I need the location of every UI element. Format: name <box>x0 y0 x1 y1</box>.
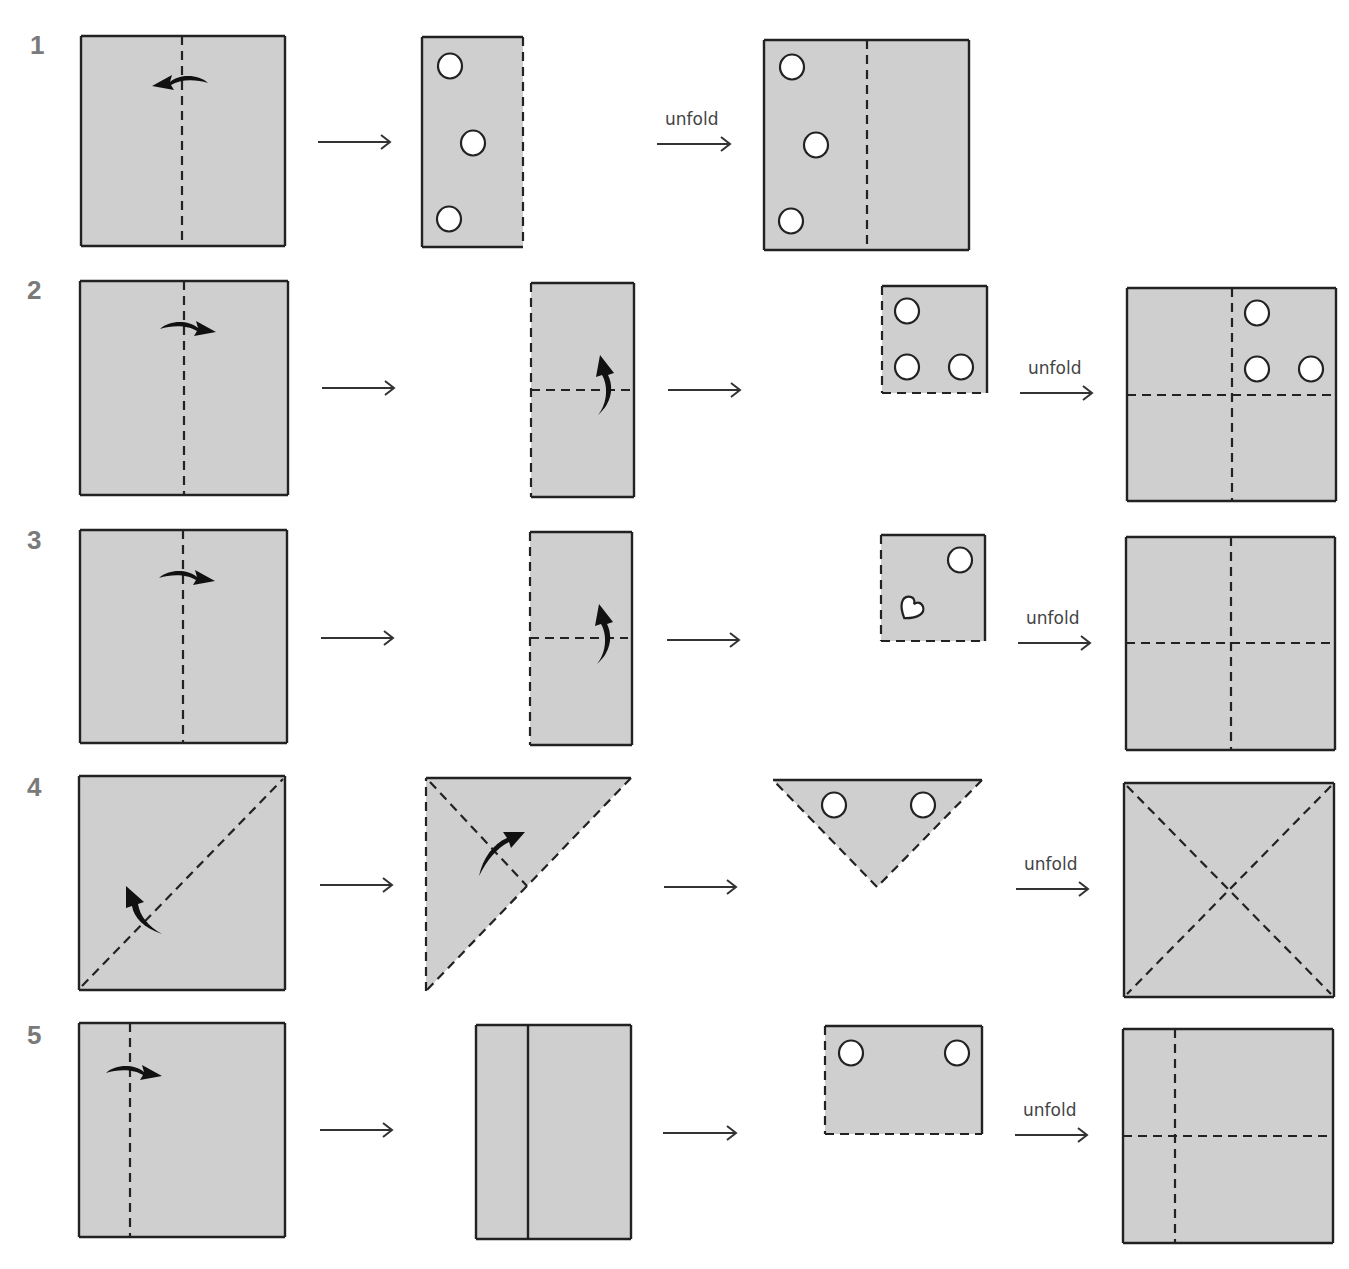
row-number: 3 <box>27 525 41 556</box>
circle-hole-icon <box>461 131 485 156</box>
circle-hole-icon <box>1299 357 1323 382</box>
paper-step-2 <box>530 532 632 745</box>
puzzle-row-2 <box>80 281 1336 501</box>
puzzle-row-4 <box>79 776 1334 997</box>
puzzle-row-5 <box>79 1023 1333 1243</box>
paper-step-2 <box>476 1025 631 1239</box>
circle-hole-icon <box>438 54 462 79</box>
circle-hole-icon <box>911 793 935 818</box>
diagram-canvas <box>0 0 1349 1269</box>
puzzle-row-1 <box>81 36 969 250</box>
circle-hole-icon <box>949 355 973 380</box>
row-number: 1 <box>30 30 44 61</box>
paper-step-1 <box>79 1023 285 1237</box>
paper-step-3 <box>773 780 982 887</box>
paper-step-1 <box>79 776 285 990</box>
paper-sheet <box>476 1025 631 1239</box>
row-number: 4 <box>27 772 41 803</box>
paper-step-2 <box>531 283 634 497</box>
circle-hole-icon <box>437 207 461 232</box>
paper-step-4 <box>1124 783 1334 997</box>
unfold-label: unfold <box>665 109 718 129</box>
unfold-label: unfold <box>1023 1100 1076 1120</box>
paper-step-1 <box>81 36 285 246</box>
paper-step-2 <box>426 778 631 991</box>
row-number: 5 <box>27 1020 41 1051</box>
circle-hole-icon <box>780 55 804 80</box>
circle-hole-icon <box>895 299 919 324</box>
paper-sheet <box>773 780 982 887</box>
circle-hole-icon <box>839 1041 863 1066</box>
circle-hole-icon <box>804 133 828 158</box>
circle-hole-icon <box>948 548 972 573</box>
paper-step-2 <box>422 37 523 247</box>
unfold-label: unfold <box>1024 854 1077 874</box>
circle-hole-icon <box>822 793 846 818</box>
circle-hole-icon <box>895 355 919 380</box>
paper-sheet <box>1124 783 1334 997</box>
paper-step-4 <box>1126 537 1335 750</box>
paper-step-4 <box>1127 288 1336 501</box>
paper-folding-puzzle: 1unfold2unfold3unfold4unfold5unfold <box>0 0 1349 1269</box>
circle-hole-icon <box>1245 357 1269 382</box>
row-number: 2 <box>27 275 41 306</box>
paper-step-1 <box>80 281 288 495</box>
paper-step-3 <box>882 286 987 393</box>
paper-step-3 <box>764 40 969 250</box>
paper-step-4 <box>1123 1029 1333 1243</box>
paper-step-1 <box>80 530 287 743</box>
circle-hole-icon <box>945 1041 969 1066</box>
paper-step-3 <box>825 1026 982 1134</box>
puzzle-row-3 <box>80 530 1335 750</box>
unfold-label: unfold <box>1026 608 1079 628</box>
paper-step-3 <box>881 535 985 641</box>
paper-sheet <box>79 1023 285 1237</box>
circle-hole-icon <box>779 209 803 234</box>
unfold-label: unfold <box>1028 358 1081 378</box>
circle-hole-icon <box>1245 301 1269 326</box>
